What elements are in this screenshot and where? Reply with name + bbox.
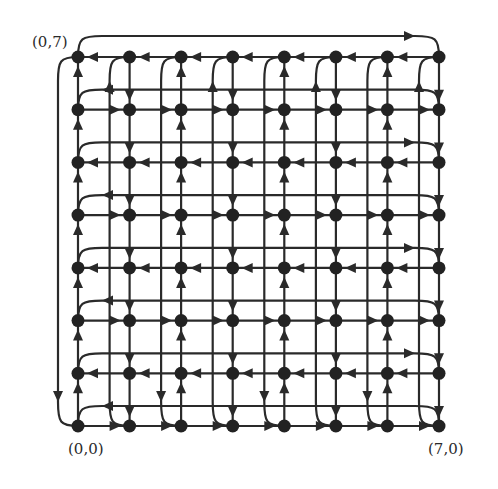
arrowhead-icon bbox=[382, 224, 392, 235]
grid-node bbox=[278, 367, 291, 380]
arrowhead-icon bbox=[73, 330, 83, 341]
arrowhead-icon bbox=[102, 401, 113, 411]
grid-node bbox=[381, 156, 394, 169]
arrowhead-icon bbox=[382, 277, 392, 288]
arrowhead-icon bbox=[53, 391, 63, 402]
arrowhead-icon bbox=[419, 105, 430, 115]
arrowhead-icon bbox=[125, 90, 135, 101]
grid-node bbox=[72, 261, 85, 274]
grid-node bbox=[278, 261, 291, 274]
arrowhead-icon bbox=[396, 52, 407, 62]
arrowhead-icon bbox=[259, 391, 269, 402]
arrowhead-icon bbox=[208, 81, 218, 92]
arrowhead-icon bbox=[345, 157, 356, 167]
grid-node bbox=[433, 103, 446, 116]
grid-node bbox=[226, 103, 239, 116]
arrowhead-icon bbox=[293, 157, 304, 167]
grid-node bbox=[123, 51, 136, 64]
grid-node bbox=[226, 156, 239, 169]
arrowhead-icon bbox=[279, 119, 289, 130]
grid-node bbox=[278, 209, 291, 222]
arrowhead-icon bbox=[404, 243, 415, 253]
arrowhead-icon bbox=[345, 52, 356, 62]
grid-node bbox=[123, 156, 136, 169]
grid-node bbox=[381, 314, 394, 327]
arrowhead-icon bbox=[125, 142, 135, 153]
arrowhead-icon bbox=[404, 137, 415, 147]
label-bottom-left: (0,0) bbox=[68, 440, 104, 458]
arrowhead-icon bbox=[316, 105, 327, 115]
arrowhead-icon bbox=[242, 263, 253, 273]
arrowhead-icon bbox=[213, 210, 224, 220]
grid-node bbox=[72, 314, 85, 327]
arrowhead-icon bbox=[264, 105, 275, 115]
arrowhead-icon bbox=[176, 330, 186, 341]
arrowhead-icon bbox=[228, 353, 238, 364]
arrowhead-icon bbox=[73, 171, 83, 182]
arrowhead-icon bbox=[176, 66, 186, 77]
grid-node bbox=[226, 51, 239, 64]
arrowhead-icon bbox=[87, 157, 98, 167]
arrowhead-icon bbox=[228, 248, 238, 259]
arrowhead-icon bbox=[73, 119, 83, 130]
arrowhead-icon bbox=[176, 119, 186, 130]
grid-node bbox=[123, 209, 136, 222]
arrowhead-icon bbox=[228, 142, 238, 153]
grid-nodes bbox=[72, 51, 446, 433]
grid-node bbox=[278, 314, 291, 327]
arrowhead-icon bbox=[382, 66, 392, 77]
arrowhead-icon bbox=[293, 263, 304, 273]
arrowhead-icon bbox=[110, 210, 121, 220]
grid-node bbox=[329, 261, 342, 274]
arrowhead-icon bbox=[367, 316, 378, 326]
arrowhead-icon bbox=[264, 210, 275, 220]
grid-node bbox=[381, 420, 394, 433]
arrowhead-icon bbox=[242, 157, 253, 167]
grid-node bbox=[433, 156, 446, 169]
grid-node bbox=[175, 209, 188, 222]
arrowhead-icon bbox=[73, 224, 83, 235]
label-top-left: (0,7) bbox=[32, 33, 68, 51]
arrowhead-icon bbox=[73, 277, 83, 288]
arrowhead-icon bbox=[110, 316, 121, 326]
arrowhead-icon bbox=[228, 406, 238, 417]
arrowhead-icon bbox=[176, 224, 186, 235]
arrowhead-icon bbox=[367, 210, 378, 220]
arrowhead-icon bbox=[102, 296, 113, 306]
grid-node bbox=[381, 367, 394, 380]
arrowhead-icon bbox=[279, 330, 289, 341]
arrowhead-icon bbox=[213, 316, 224, 326]
arrowhead-icon bbox=[228, 301, 238, 312]
grid-node bbox=[175, 420, 188, 433]
arrowhead-icon bbox=[382, 171, 392, 182]
arrowhead-icon bbox=[382, 330, 392, 341]
grid-node bbox=[226, 420, 239, 433]
arrowhead-icon bbox=[161, 105, 172, 115]
grid-node bbox=[329, 420, 342, 433]
grid-node bbox=[433, 51, 446, 64]
arrowhead-icon bbox=[331, 195, 341, 206]
grid-node bbox=[278, 156, 291, 169]
arrowhead-icon bbox=[396, 157, 407, 167]
arrowhead-icon bbox=[213, 105, 224, 115]
grid-node bbox=[329, 209, 342, 222]
arrowhead-icon bbox=[316, 316, 327, 326]
arrowhead-icon bbox=[110, 105, 121, 115]
grid-node bbox=[72, 103, 85, 116]
arrowhead-icon bbox=[87, 52, 98, 62]
arrowhead-icon bbox=[190, 52, 201, 62]
arrowhead-icon bbox=[125, 195, 135, 206]
arrowhead-icon bbox=[228, 90, 238, 101]
grid-node bbox=[381, 261, 394, 274]
grid-node bbox=[72, 51, 85, 64]
arrowhead-icon bbox=[396, 263, 407, 273]
grid-node bbox=[329, 156, 342, 169]
arrowhead-icon bbox=[279, 277, 289, 288]
arrowhead-icon bbox=[125, 406, 135, 417]
grid-node bbox=[72, 367, 85, 380]
grid-node bbox=[72, 209, 85, 222]
arrowhead-icon bbox=[279, 382, 289, 393]
arrowhead-icon bbox=[139, 263, 150, 273]
grid-node bbox=[278, 420, 291, 433]
grid-node bbox=[433, 420, 446, 433]
